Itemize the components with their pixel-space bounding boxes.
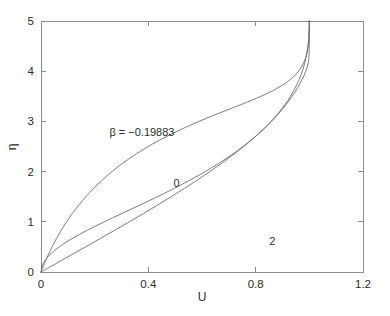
curve-label: 0: [173, 177, 179, 189]
y-tick-label: 5: [28, 15, 34, 27]
chart-plot: 00.40.81.2 012345 U η β = −0.1988302: [0, 0, 390, 316]
x-tick-label: 0: [38, 278, 44, 290]
x-tick-label: 0.8: [248, 278, 264, 290]
y-tick-label: 0: [28, 266, 34, 278]
y-tick-label: 3: [28, 115, 34, 127]
y-axis-title: η: [5, 144, 19, 151]
beta-annotation: β = −0.19883: [109, 126, 174, 138]
curve-label: 2: [269, 235, 275, 247]
y-tick-label: 2: [28, 166, 34, 178]
y-tick-label: 1: [28, 216, 34, 228]
x-tick-label: 1.2: [355, 278, 371, 290]
chart-background: [0, 0, 390, 316]
x-tick-label: 0.4: [140, 278, 157, 290]
x-axis-title: U: [198, 290, 207, 304]
figure-canvas: 00.40.81.2 012345 U η β = −0.1988302: [0, 0, 390, 316]
y-tick-label: 4: [28, 65, 35, 77]
